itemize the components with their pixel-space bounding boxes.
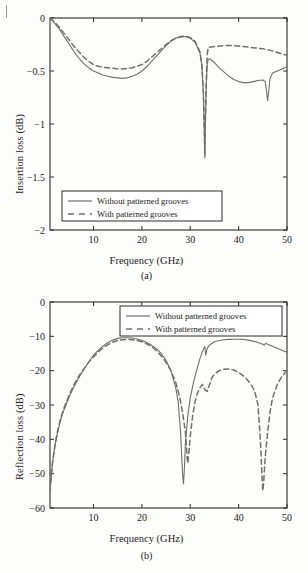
curve-without-grooves: [50, 338, 287, 491]
legend-item-without-grooves: Without patterned grooves: [97, 196, 189, 206]
x-axis-label-a: Frequency (GHz): [28, 255, 265, 266]
y-tick-label: −1.5: [27, 172, 45, 183]
y-tick-label: −40: [29, 434, 45, 445]
x-tick-label: 10: [89, 234, 99, 245]
x-tick-label: 50: [282, 234, 292, 245]
x-tick-label: 20: [137, 512, 147, 523]
x-tick-label: 50: [282, 512, 292, 523]
figure-b: 10203040500−10−20−30−40−50−60Without pat…: [0, 292, 308, 573]
legend-item-with-grooves: With patterned grooves: [155, 324, 236, 334]
x-tick-label: 20: [137, 234, 147, 245]
figure-a: 10203040500−0.5−1−1.5−2Without patterned…: [0, 8, 308, 290]
x-tick-label: 30: [185, 234, 195, 245]
y-tick-label: −2: [34, 225, 45, 236]
subcaption-b: (b): [28, 550, 265, 561]
subcaption-a: (a): [28, 270, 265, 281]
y-tick-label: −20: [29, 365, 45, 376]
x-tick-label: 30: [185, 512, 195, 523]
curve-with-grooves: [50, 339, 287, 490]
x-tick-label: 40: [234, 512, 244, 523]
y-tick-label: −10: [29, 331, 45, 342]
y-tick-label: −30: [29, 400, 45, 411]
insertion-loss-plot: 10203040500−0.5−1−1.5−2Without patterned…: [0, 8, 308, 258]
y-tick-label: −60: [29, 503, 45, 514]
x-axis-label-b: Frequency (GHz): [28, 533, 265, 544]
legend-item-with-grooves: With patterned grooves: [97, 209, 178, 219]
legend-item-without-grooves: Without patterned grooves: [155, 311, 247, 321]
y-tick-label: −1: [34, 119, 45, 130]
y-tick-label: 0: [40, 13, 45, 24]
curve-with-grooves: [50, 18, 287, 156]
y-tick-label: 0: [40, 297, 45, 308]
figure-page: 10203040500−0.5−1−1.5−2Without patterned…: [0, 0, 308, 573]
y-axis-label-a: Insertion loss (dB): [14, 114, 25, 194]
x-tick-label: 10: [89, 512, 99, 523]
y-axis-label-b: Reflection loss (dB): [14, 393, 25, 480]
reflection-loss-plot: 10203040500−10−20−30−40−50−60Without pat…: [0, 292, 308, 540]
x-tick-label: 40: [234, 234, 244, 245]
y-tick-label: −50: [29, 468, 45, 479]
curve-without-grooves: [50, 18, 287, 158]
y-tick-label: −0.5: [27, 66, 45, 77]
